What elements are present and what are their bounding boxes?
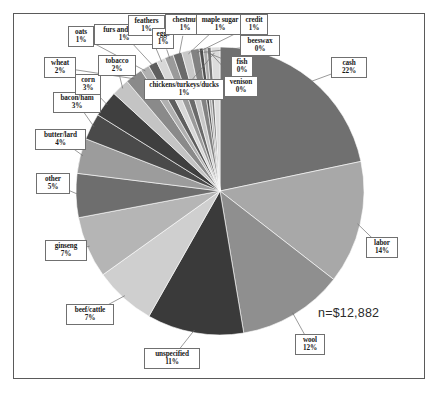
label-name: tobacco <box>106 57 129 65</box>
slice-label-ginseng: ginseng 7% <box>45 240 87 261</box>
label-value: 1% <box>71 36 91 44</box>
label-value: 22% <box>334 67 364 75</box>
label-name: credit <box>245 16 262 24</box>
label-name: corn <box>81 76 95 84</box>
label-value: 0% <box>243 45 277 53</box>
label-value: 14% <box>369 247 395 255</box>
label-name: butter/lard <box>44 131 77 139</box>
label-name: wheat <box>51 59 69 67</box>
slice-label-beef-cattle: beef/cattle 7% <box>66 304 114 325</box>
label-value: 3% <box>78 84 98 92</box>
label-name: bacon/ham <box>60 94 93 102</box>
slice-label-venison: venison 0% <box>224 76 258 97</box>
label-name: venison <box>230 78 252 86</box>
slice-label-credit: credit 1% <box>240 14 268 35</box>
slice-label-labor: labor 14% <box>366 237 398 258</box>
slice-label-wheat: wheat 2% <box>44 57 76 78</box>
label-name: feathers <box>135 17 159 25</box>
label-value: 2% <box>47 67 73 75</box>
slice-label-wool: wool 12% <box>295 334 325 355</box>
leader-line <box>84 112 94 127</box>
label-value: 5% <box>39 183 67 191</box>
label-value: 0% <box>234 66 250 74</box>
label-name: wool <box>303 336 317 344</box>
label-value: 1% <box>199 24 241 32</box>
label-name: beef/cattle <box>75 306 105 314</box>
slice-label-fish: fish 0% <box>231 56 253 77</box>
slice-label-beeswax: beeswax 0% <box>240 35 280 56</box>
label-name: other <box>45 175 61 183</box>
label-name: fish <box>237 58 248 66</box>
label-value: 0% <box>227 86 255 94</box>
label-name: labor <box>374 239 390 247</box>
slice-label-butter-lard: butter/lard 4% <box>35 129 86 150</box>
label-name: ginseng <box>55 242 77 250</box>
slice-label-unspecified: unspecified 11% <box>144 348 200 369</box>
label-value: 7% <box>69 314 111 322</box>
label-name: maple sugar <box>202 16 239 24</box>
label-name: cash <box>342 59 355 67</box>
label-value: 4% <box>38 139 83 147</box>
label-value: 7% <box>48 250 84 258</box>
leader-line <box>179 330 194 349</box>
label-value: 12% <box>298 344 322 352</box>
label-value: 1% <box>155 38 171 46</box>
label-value: 1% <box>147 89 221 97</box>
slice-label-other: other 5% <box>36 173 70 194</box>
slice-label-oats: oats 1% <box>68 26 94 47</box>
sample-size-annotation: n=$12,882 <box>318 306 379 320</box>
slice-label-cash: cash 22% <box>331 57 367 78</box>
label-name: unspecified <box>155 350 189 358</box>
leader-line <box>293 313 305 335</box>
label-name: oats <box>75 28 87 36</box>
slice-label-corn: corn 3% <box>75 74 101 95</box>
slice-label-tobacco: tobacco 2% <box>98 55 136 76</box>
label-value: 1% <box>243 24 265 32</box>
label-value: 11% <box>147 358 197 366</box>
label-name: beeswax <box>248 37 273 45</box>
label-name: chickens/turkeys/ducks <box>149 81 218 89</box>
slice-label-maple-sugar: maple sugar 1% <box>196 14 244 35</box>
label-value: 3% <box>56 102 98 110</box>
slice-label-chickens-turkeys-ducks: chickens/turkeys/ducks 1% <box>144 79 224 100</box>
label-name: chestnut <box>172 16 197 24</box>
slice-label-bacon-ham: bacon/ham 3% <box>53 92 101 113</box>
label-value: 2% <box>101 65 133 73</box>
